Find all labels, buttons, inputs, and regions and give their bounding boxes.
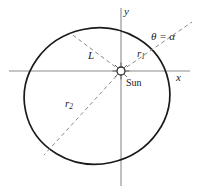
- y-axis-label: y: [124, 6, 129, 17]
- orbit-diagram: y x θ = α r1 r2 L Sun: [0, 0, 197, 191]
- r2-subscript: 2: [69, 102, 73, 111]
- ray-r2-line: [44, 71, 121, 155]
- theta-equals-alpha-label: θ = α: [151, 31, 175, 42]
- diagram-canvas: [0, 0, 197, 191]
- r2-label: r2: [65, 98, 73, 111]
- sun-label: Sun: [126, 78, 142, 88]
- x-axis-label: x: [176, 72, 181, 83]
- r1-subscript: 1: [141, 52, 145, 61]
- segment-L-line: [70, 33, 121, 71]
- segment-L-label: L: [88, 50, 94, 61]
- sun-body-circle: [117, 67, 125, 75]
- r1-label: r1: [137, 48, 145, 61]
